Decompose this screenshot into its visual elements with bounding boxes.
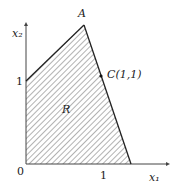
- y-tick-label: 1: [16, 76, 23, 87]
- y-axis-label: x₂: [12, 28, 23, 39]
- x-tick-label: 1: [100, 170, 107, 181]
- origin-label: 0: [17, 166, 24, 177]
- point-c-label: C(1,1): [107, 69, 142, 80]
- feasible-region-diagram: [0, 0, 181, 191]
- y-axis-arrow-icon: [24, 22, 28, 26]
- region-r: [26, 25, 131, 164]
- point-a-label: A: [78, 8, 86, 19]
- x-axis-label: x₁: [149, 172, 160, 183]
- point-c-marker: [99, 74, 102, 77]
- x-axis-arrow-icon: [166, 162, 170, 166]
- region-label: R: [62, 104, 70, 115]
